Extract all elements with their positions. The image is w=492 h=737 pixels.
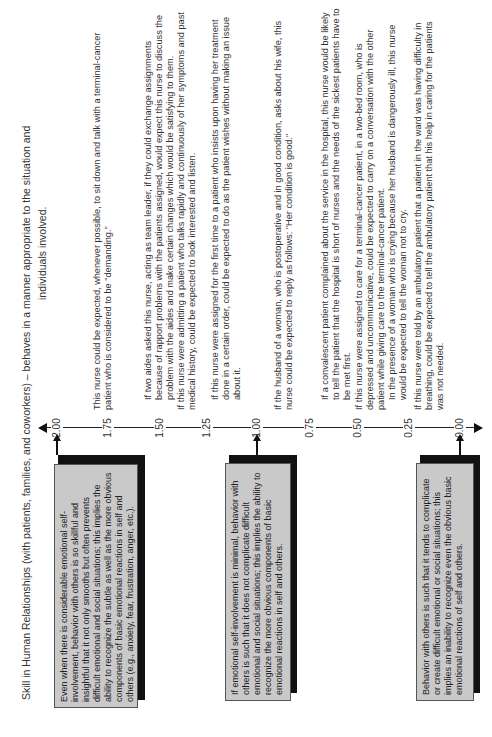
statement-text: This nurse could be expected, whenever p… bbox=[92, 5, 114, 410]
anchor-connector bbox=[56, 439, 58, 455]
tick-label: 1.25 bbox=[201, 412, 213, 444]
anchor-connector bbox=[256, 439, 258, 455]
statement-text: If this nurse were assigned to care for … bbox=[354, 5, 387, 410]
statement-050: If this nurse were assigned to care for … bbox=[354, 5, 409, 410]
connector-arrow-icon bbox=[53, 434, 61, 441]
anchor-box-mid: If emotional self-involvement is minimal… bbox=[225, 463, 291, 701]
statement-text: If this nurse were told by an ambulatory… bbox=[413, 5, 446, 410]
anchor-box-low: Behavior with others is such that it ten… bbox=[416, 463, 474, 701]
anchor-box-high: Even when there is considerable emotiona… bbox=[54, 464, 138, 708]
tick-label: 0.75 bbox=[304, 412, 316, 444]
statement-text: If two aides asked this nurse, acting as… bbox=[143, 5, 176, 410]
scale-title-continuation: individuals involved. bbox=[36, 207, 48, 300]
axis-arrow-low-icon bbox=[474, 423, 483, 433]
statement-text: If the husband of a woman, who is postop… bbox=[273, 5, 295, 410]
statement-text: If this nurse were assigned for the firs… bbox=[210, 5, 243, 410]
rating-scale-page: Skill in Human Relationships (with patie… bbox=[0, 0, 492, 737]
axis-arrow-high-icon bbox=[38, 423, 47, 433]
statement-text: In the presence of a woman who is crying… bbox=[387, 5, 409, 410]
anchor-connector bbox=[459, 439, 461, 455]
tick-label: 0.50 bbox=[352, 412, 364, 444]
statement-075: If a convalescent patient complained abo… bbox=[320, 5, 353, 410]
tick-label: 0.25 bbox=[403, 412, 415, 444]
connector-arrow-icon bbox=[456, 434, 464, 441]
statement-text: If this nurse were admitting a patient w… bbox=[176, 5, 198, 410]
tick-label: 1.50 bbox=[154, 412, 166, 444]
statement-100: If the husband of a woman, who is postop… bbox=[273, 5, 295, 410]
statement-text: If a convalescent patient complained abo… bbox=[320, 5, 353, 410]
statement-125: If this nurse were assigned for the firs… bbox=[210, 5, 243, 410]
tick-label: 1.75 bbox=[102, 412, 114, 444]
statement-025: If this nurse were told by an ambulatory… bbox=[413, 5, 446, 410]
statement-150: If two aides asked this nurse, acting as… bbox=[143, 5, 198, 410]
connector-arrow-icon bbox=[253, 434, 261, 441]
statement-175: This nurse could be expected, whenever p… bbox=[92, 5, 114, 410]
scale-title: Skill in Human Relationships (with patie… bbox=[20, 126, 32, 700]
